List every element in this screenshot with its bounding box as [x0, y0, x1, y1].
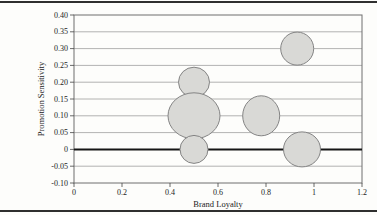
y-tick-label: 0.40: [54, 11, 68, 20]
bubble: [243, 96, 280, 136]
x-tick-label: 0.8: [261, 188, 271, 197]
y-tick-label: 0.15: [54, 95, 68, 104]
x-axis-title: Brand Loyalty: [193, 199, 242, 209]
bubble: [284, 132, 321, 167]
x-tick-label: 1: [312, 188, 316, 197]
bubble-chart: 0.400.350.300.250.200.150.100.050-0.05-0…: [0, 0, 377, 215]
x-tick-label: 0.2: [117, 188, 127, 197]
y-tick-label: 0.25: [54, 61, 68, 70]
y-tick-label: 0.30: [54, 44, 68, 53]
y-tick-label: 0: [64, 145, 68, 154]
x-tick-label: 0.6: [213, 188, 223, 197]
tick-marks-layer: [70, 15, 362, 187]
bubble: [180, 135, 208, 163]
y-tick-label: 0.20: [54, 78, 68, 87]
bubbles-layer: [168, 32, 321, 167]
y-tick-label: 0.35: [54, 27, 68, 36]
x-tick-label: 1.2: [357, 188, 367, 197]
y-tick-label: 0.10: [54, 111, 68, 120]
y-tick-label: -0.10: [51, 179, 68, 188]
bubble: [281, 32, 314, 65]
bottom-rule: [0, 210, 377, 212]
figure-bubble-chart: 0.400.350.300.250.200.150.100.050-0.05-0…: [0, 0, 377, 215]
y-tick-label: 0.05: [54, 128, 68, 137]
x-tick-label: 0: [72, 188, 76, 197]
x-tick-label: 0.4: [165, 188, 175, 197]
y-tick-label: -0.05: [51, 162, 68, 171]
bubble: [168, 93, 220, 139]
y-axis-title: Promotion Sensitivity: [36, 62, 46, 136]
